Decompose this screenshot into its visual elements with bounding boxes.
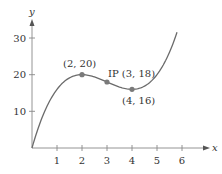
x-axis-arrow-icon — [203, 146, 210, 151]
y-axis-label: y — [28, 6, 35, 17]
inflection-point-label: IP (3, 18) — [108, 68, 155, 79]
chart: x y 1 2 3 4 5 6 10 20 30 (2, 20) IP (3, … — [0, 0, 222, 174]
y-tick-label: 10 — [13, 106, 26, 117]
y-axis-arrow-icon — [30, 19, 35, 26]
x-tick-label: 5 — [154, 155, 160, 166]
relative-max-point — [79, 72, 84, 77]
y-tick-label: 30 — [13, 33, 26, 44]
x-tick-label: 6 — [179, 155, 185, 166]
x-tick-label: 4 — [129, 155, 135, 166]
relative-min-label: (4, 16) — [122, 95, 155, 106]
x-tick-label: 1 — [54, 155, 60, 166]
x-tick-label: 3 — [104, 155, 110, 166]
x-axis-label: x — [212, 142, 218, 153]
function-curve — [32, 32, 177, 148]
relative-max-label: (2, 20) — [63, 58, 96, 69]
x-tick-label: 2 — [79, 155, 85, 166]
relative-min-point — [129, 87, 134, 92]
inflection-point — [104, 79, 109, 84]
y-tick-label: 20 — [13, 69, 26, 80]
